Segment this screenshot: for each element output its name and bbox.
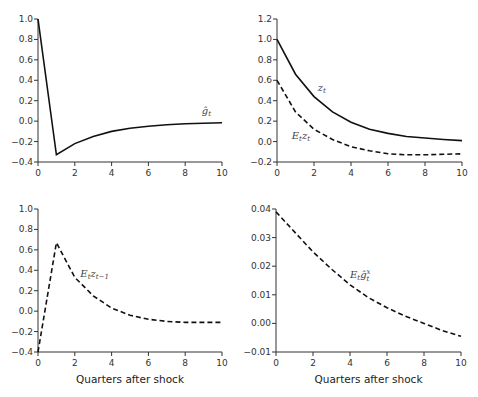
y-tick-label: 1.0 bbox=[258, 34, 273, 44]
y-tick-label: 0.01 bbox=[251, 290, 271, 300]
x-tick-label: 4 bbox=[109, 358, 115, 368]
y-tick-label: 1.0 bbox=[19, 204, 34, 214]
panel-bottom-left: −0.4−0.20.00.20.40.60.81.00246810Quarter… bbox=[11, 204, 228, 385]
panel-top-left: −0.4−0.20.00.20.40.60.81.00246810ĝt bbox=[11, 14, 228, 178]
series-line-e-t-z-t bbox=[277, 80, 462, 155]
x-tick-label: 4 bbox=[109, 168, 115, 178]
y-tick-label: 0.4 bbox=[19, 265, 34, 275]
y-tick-label: 0.02 bbox=[251, 261, 271, 271]
series-line-g-t bbox=[38, 19, 222, 155]
x-tick-label: 2 bbox=[72, 168, 78, 178]
x-tick-label: 0 bbox=[35, 358, 41, 368]
series-line-z-t bbox=[277, 39, 462, 140]
y-tick-label: −0.01 bbox=[243, 347, 271, 357]
y-tick-label: 0.00 bbox=[251, 318, 271, 328]
y-tick-label: −0.4 bbox=[11, 157, 33, 167]
panel-bottom-right: −0.010.000.010.020.030.040246810Quarters… bbox=[243, 204, 467, 385]
x-tick-label: 0 bbox=[35, 168, 41, 178]
x-tick-label: 6 bbox=[146, 168, 152, 178]
x-tick-label: 2 bbox=[310, 358, 316, 368]
x-tick-label: 8 bbox=[422, 168, 428, 178]
y-tick-label: 0.0 bbox=[258, 137, 273, 147]
y-tick-label: 0.2 bbox=[258, 116, 272, 126]
x-tick-label: 10 bbox=[216, 358, 228, 368]
y-tick-label: 0.6 bbox=[19, 245, 34, 255]
x-tick-label: 10 bbox=[455, 358, 467, 368]
x-tick-label: 6 bbox=[385, 168, 391, 178]
x-axis-title: Quarters after shock bbox=[76, 373, 185, 385]
x-tick-label: 6 bbox=[146, 358, 152, 368]
series-label: Etzt bbox=[291, 130, 310, 143]
y-tick-label: 0.8 bbox=[258, 55, 273, 65]
y-tick-label: 0.04 bbox=[251, 204, 271, 214]
x-tick-label: 2 bbox=[311, 168, 317, 178]
x-tick-label: 8 bbox=[182, 168, 188, 178]
y-tick-label: −0.4 bbox=[11, 347, 33, 357]
x-tick-label: 0 bbox=[273, 358, 279, 368]
y-tick-label: 0.6 bbox=[258, 75, 273, 85]
x-tick-label: 6 bbox=[384, 358, 390, 368]
y-tick-label: 0.6 bbox=[19, 55, 34, 65]
y-tick-label: 0.0 bbox=[19, 116, 34, 126]
x-tick-label: 0 bbox=[274, 168, 280, 178]
y-tick-label: 0.03 bbox=[251, 233, 271, 243]
x-tick-label: 8 bbox=[182, 358, 188, 368]
y-tick-label: 0.2 bbox=[19, 96, 33, 106]
y-tick-label: 1.0 bbox=[19, 14, 34, 24]
x-tick-label: 4 bbox=[348, 168, 354, 178]
series-line-e-t-z-t-1- bbox=[38, 243, 222, 352]
y-tick-label: −0.2 bbox=[250, 157, 272, 167]
series-label: Etĝxt bbox=[349, 268, 371, 283]
series-label: Etzt−1 bbox=[79, 268, 109, 281]
y-tick-label: 0.4 bbox=[19, 75, 34, 85]
x-axis-title: Quarters after shock bbox=[315, 373, 424, 385]
y-tick-label: 0.8 bbox=[19, 224, 34, 234]
series-label: ĝt bbox=[202, 105, 211, 118]
y-tick-label: −0.2 bbox=[11, 327, 33, 337]
chart-figure: −0.4−0.20.00.20.40.60.81.00246810ĝt−0.2… bbox=[0, 0, 478, 397]
x-tick-label: 4 bbox=[347, 358, 353, 368]
y-tick-label: 0.2 bbox=[19, 286, 33, 296]
x-tick-label: 8 bbox=[421, 358, 427, 368]
y-tick-label: 0.4 bbox=[258, 96, 273, 106]
series-label: zt bbox=[317, 82, 326, 95]
x-tick-label: 10 bbox=[216, 168, 228, 178]
y-tick-label: 0.0 bbox=[19, 306, 34, 316]
y-tick-label: −0.2 bbox=[11, 137, 33, 147]
y-tick-label: 0.8 bbox=[19, 34, 34, 44]
x-tick-label: 10 bbox=[456, 168, 468, 178]
y-tick-label: 1.2 bbox=[258, 14, 272, 24]
x-tick-label: 2 bbox=[72, 358, 78, 368]
panel-top-right: −0.20.00.20.40.60.81.01.20246810ztEtzt bbox=[250, 14, 468, 178]
